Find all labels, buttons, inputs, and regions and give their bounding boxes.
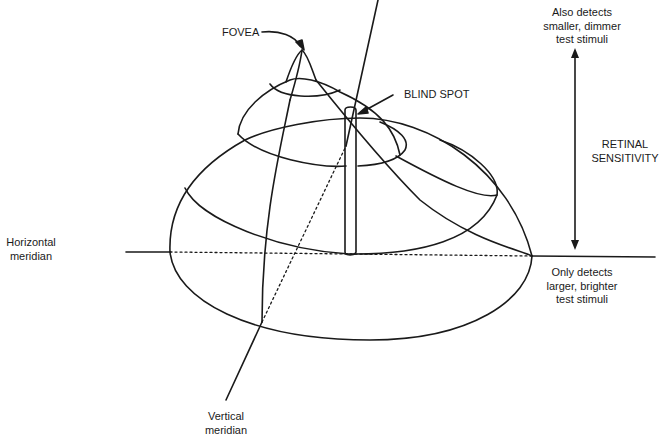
- middle-contour: [185, 140, 497, 254]
- hill-of-vision-diagram: [0, 0, 662, 440]
- base-outline: [170, 252, 532, 340]
- meridian-curve-left: [262, 100, 290, 322]
- top-dome: [238, 79, 400, 156]
- vertical-meridian-label: Vertical meridian: [190, 410, 262, 437]
- blind-spot-label: BLIND SPOT: [404, 88, 469, 102]
- horizontal-meridian-label: Horizontal meridian: [0, 236, 62, 263]
- smaller-dimmer-stimuli-label: Also detects smaller, dimmer test stimul…: [532, 6, 632, 47]
- larger-brighter-stimuli-label: Only detects larger, brighter test stimu…: [532, 266, 632, 307]
- retinal-sensitivity-label: RETINAL SENSITIVITY: [588, 138, 662, 165]
- fovea-arrow: [262, 32, 300, 46]
- fovea-label: FOVEA: [222, 26, 259, 40]
- retinal-sensitivity-arrow: [571, 48, 579, 250]
- upper-contour: [238, 122, 406, 166]
